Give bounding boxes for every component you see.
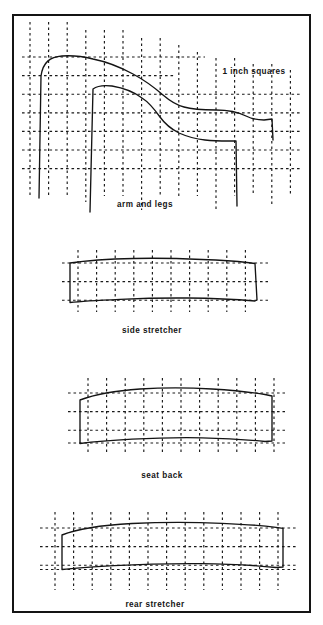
caption-side-stretcher: side stretcher (122, 326, 182, 335)
caption-rear-stretcher: rear stretcher (125, 600, 184, 609)
caption-seat-back: seat back (141, 471, 182, 480)
pattern-plate: 1 inch squares arm and legs side stretch… (0, 0, 323, 625)
grid-scale-note: 1 inch squares (223, 67, 286, 76)
caption-arm-and-legs: arm and legs (117, 200, 173, 209)
